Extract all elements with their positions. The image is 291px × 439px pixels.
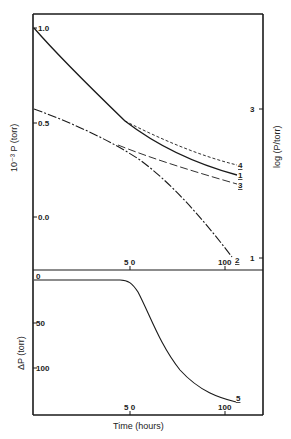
xtick-top-100: 100 [218, 258, 232, 267]
ytick-bottom-100: 100 [36, 364, 50, 373]
label-curve-3: 3 [238, 181, 243, 190]
xtick-top-50: 5 0 [124, 258, 136, 267]
label-curve-5: 5 [236, 394, 241, 403]
ytick-right-3: 3 [250, 105, 255, 114]
ytick-right-1: 1 [250, 254, 255, 263]
label-curve-1: 1 [238, 171, 243, 180]
label-curve-4: 4 [238, 161, 243, 170]
ytick-0.0: 0.0 [38, 213, 50, 222]
xtick-bottom-100: 100 [218, 403, 232, 412]
right-ylabel: log (P/torr) [272, 125, 282, 168]
curve-2 [34, 109, 232, 257]
top-ylabel: 10⁻³ P (torr) [9, 124, 19, 172]
xtick-bottom-50: 5 0 [124, 403, 136, 412]
curve-3 [118, 145, 237, 184]
label-curve-2: 2 [235, 256, 240, 265]
ytick-1.0: 1.0 [38, 24, 50, 33]
curve-1 [34, 28, 237, 175]
ytick-0.5: 0.5 [38, 119, 50, 128]
ytick-bottom-50: 50 [36, 319, 45, 328]
chart-figure: 1.0 0.5 0.0 3 1 5 0 100 4 1 3 2 10⁻³ P (… [0, 0, 291, 439]
top-panel: 1.0 0.5 0.0 3 1 5 0 100 4 1 3 2 10⁻³ P (… [9, 14, 282, 415]
curve-4 [125, 121, 237, 165]
xlabel: Time (hours) [113, 421, 164, 431]
bottom-panel: 0 50 100 5 0 100 5 ΔP (torr) Time (hours… [16, 272, 263, 431]
bottom-ylabel: ΔP (torr) [16, 336, 26, 370]
curve-5 [34, 280, 236, 402]
